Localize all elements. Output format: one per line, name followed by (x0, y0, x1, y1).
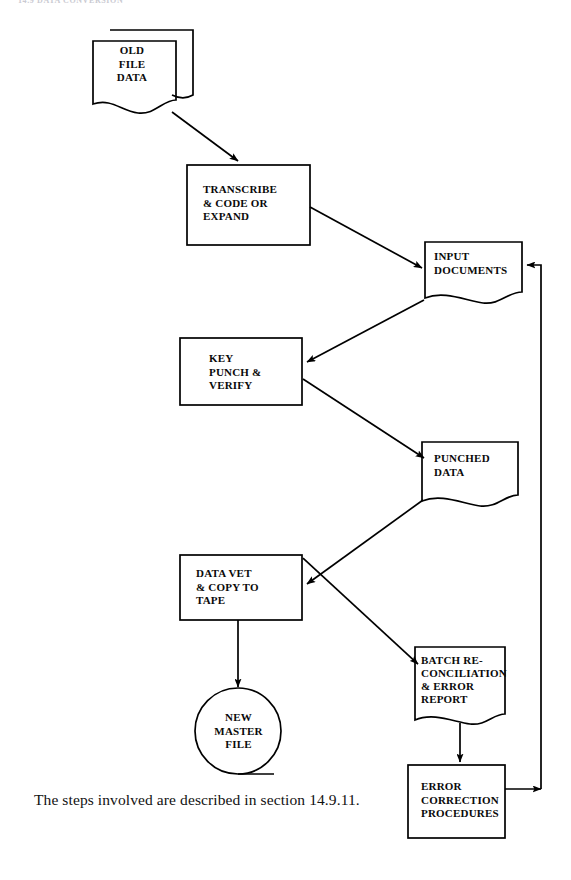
node-old-file-data-shape (93, 41, 176, 113)
connector-key-punch-to-punched-data (303, 379, 424, 458)
flowchart-canvas (0, 0, 571, 880)
connector-old-file-to-transcribe (172, 112, 238, 161)
flowchart-page: 14.9 DATA CONVERSION (0, 0, 571, 880)
node-new-master-file-shape (195, 688, 281, 774)
node-transcribe-shape (187, 165, 310, 245)
node-batch-reconciliation-shape (415, 647, 505, 724)
node-data-vet-copy-tape-shape (180, 555, 302, 620)
node-punched-data-shape (422, 442, 518, 506)
connector-transcribe-to-input-documents (310, 207, 422, 268)
connector-input-documents-to-key-punch (307, 300, 424, 362)
connector-data-vet-to-batch-reconciliation (303, 558, 418, 664)
connector-feedback-riser (527, 265, 541, 789)
figure-caption: The steps involved are described in sect… (34, 791, 360, 809)
connector-punched-data-to-data-vet (307, 500, 423, 584)
node-input-documents-shape (425, 242, 522, 303)
node-error-correction-shape (408, 765, 505, 838)
node-key-punch-verify-shape (180, 338, 302, 405)
node-old-file-data-back-sheet (110, 30, 193, 98)
